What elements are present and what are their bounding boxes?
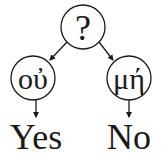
leaf-no-label: No: [107, 117, 151, 157]
right-node: μή: [107, 56, 151, 100]
edge-root-to-right: [99, 42, 113, 60]
decision-tree-diagram: ? οὐ μή Yes No: [0, 0, 161, 159]
left-node: οὐ: [11, 56, 55, 100]
left-node-label: οὐ: [18, 62, 48, 95]
root-node-label: ?: [75, 8, 91, 48]
root-node: ?: [61, 5, 105, 49]
edge-root-to-left: [50, 42, 67, 60]
leaf-yes-label: Yes: [10, 117, 62, 157]
right-node-label: μή: [113, 62, 145, 95]
